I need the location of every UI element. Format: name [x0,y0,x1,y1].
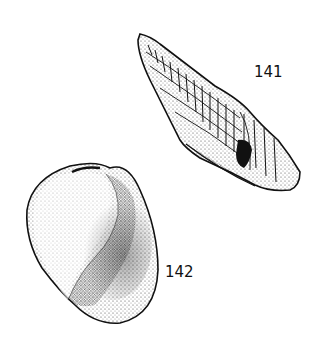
figure-label-142: 142 [165,263,194,281]
figure-label-141: 141 [254,63,283,81]
shell-142 [27,163,158,323]
shell-illustration [0,0,327,347]
shell-141 [138,34,300,190]
